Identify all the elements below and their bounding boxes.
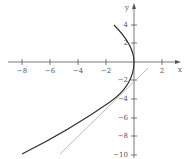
- y-axis-arrow-icon: [132, 3, 136, 9]
- y-tick-label: −10: [113, 151, 128, 159]
- y-axis-label: y: [124, 4, 129, 12]
- tangent-line: [60, 68, 148, 154]
- y-tick-label: 2: [124, 39, 128, 47]
- y-tick-label: −8: [118, 132, 128, 140]
- y-tick-label: −6: [118, 114, 129, 122]
- plot: −8 −6 −4 −2 2 x 4 2 −2 −4 −6 −8 −10 y: [0, 0, 194, 159]
- y-tick-label: 4: [124, 21, 129, 29]
- x-axis-arrow-icon: [175, 60, 181, 64]
- x-axis-label: x: [178, 66, 182, 74]
- x-tick-label: −8: [17, 67, 27, 75]
- graph-figure: −8 −6 −4 −2 2 x 4 2 −2 −4 −6 −8 −10 y: [0, 0, 194, 159]
- x-tick-label: −2: [101, 67, 111, 75]
- y-tick-label: −2: [118, 76, 128, 84]
- x-tick-label: −4: [73, 67, 84, 75]
- x-tick-label: −6: [45, 67, 56, 75]
- x-tick-label: 2: [160, 67, 164, 75]
